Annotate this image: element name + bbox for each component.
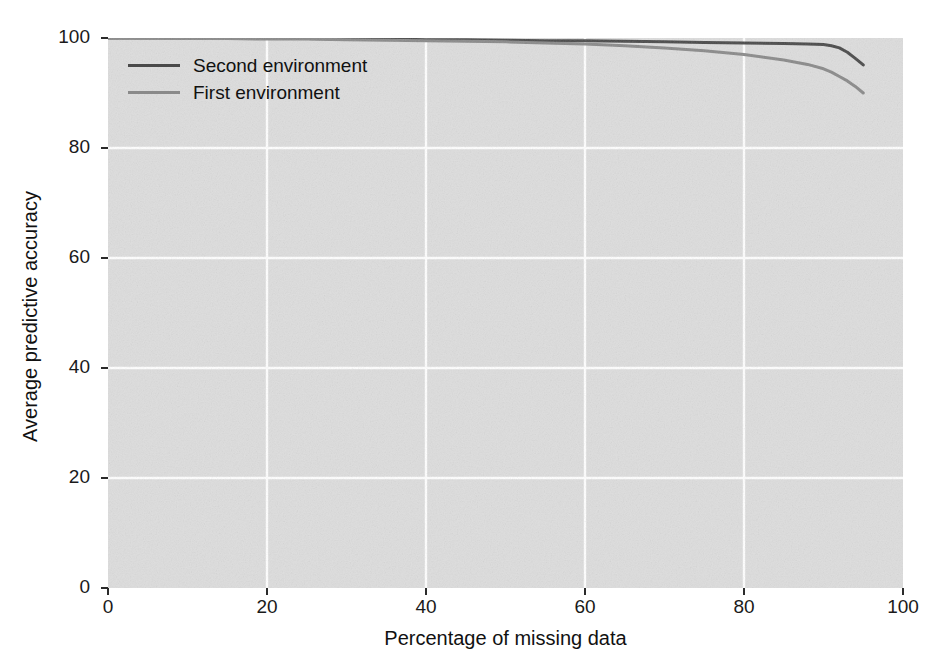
y-axis-title: Average predictive accuracy [19,42,42,592]
legend-item-first-environment: First environment [128,79,378,106]
x-tick-label-80: 80 [714,596,774,618]
legend-label-first-environment: First environment [193,82,340,104]
legend-swatch-second-environment [128,64,180,67]
y-tick-mark-100 [101,37,108,39]
y-tick-mark-40 [101,367,108,369]
y-tick-mark-20 [101,477,108,479]
plot-area [108,38,903,588]
x-tick-mark-60 [584,588,586,595]
chart-legend: Second environment First environment [128,52,378,106]
x-tick-label-100: 100 [873,596,933,618]
x-tick-label-20: 20 [237,596,297,618]
x-tick-mark-40 [425,588,427,595]
series-lines [108,38,903,588]
x-tick-label-60: 60 [555,596,615,618]
legend-item-second-environment: Second environment [128,52,378,79]
legend-label-second-environment: Second environment [193,55,367,77]
chart-figure: 020406080100020406080100 Percentage of m… [0,0,943,671]
x-tick-mark-80 [743,588,745,595]
legend-swatch-first-environment [128,91,180,94]
x-tick-mark-0 [107,588,109,595]
x-tick-mark-100 [902,588,904,595]
x-tick-label-0: 0 [78,596,138,618]
x-tick-label-40: 40 [396,596,456,618]
x-tick-mark-20 [266,588,268,595]
y-tick-mark-60 [101,257,108,259]
x-axis-title: Percentage of missing data [108,627,903,650]
y-tick-mark-80 [101,147,108,149]
